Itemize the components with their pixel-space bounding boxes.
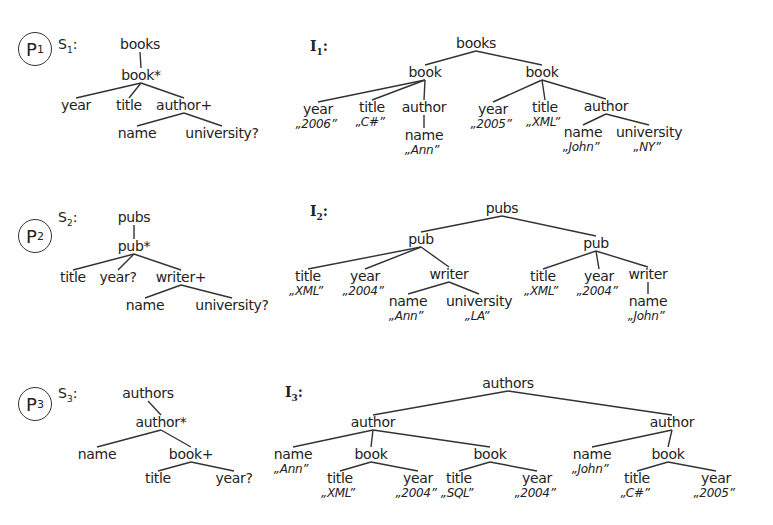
i2-node-p2: pub bbox=[583, 235, 609, 251]
i3-node-t3: title bbox=[624, 470, 650, 486]
i2-edge-p1-t1 bbox=[308, 247, 421, 269]
i3-node-authors: authors bbox=[482, 375, 533, 391]
i2-node-n1: name bbox=[389, 293, 428, 309]
i3-edge-a1-n1 bbox=[293, 430, 373, 447]
s1-node-name: name bbox=[118, 125, 157, 141]
s3-node-year: year? bbox=[215, 470, 252, 486]
i3-value-t2: „SQL” bbox=[441, 486, 474, 500]
schema-label-s1: S1: bbox=[58, 36, 77, 58]
i2-edge-p2-y2 bbox=[596, 251, 599, 269]
s1-node-book: book* bbox=[121, 67, 161, 83]
schema-label-s2-suffix: : bbox=[73, 209, 78, 225]
schema-label-s3-suffix: : bbox=[73, 385, 78, 401]
problem-prefix: P bbox=[26, 394, 37, 415]
i2-edge-p2-w2 bbox=[596, 251, 648, 267]
i3-node-b2: book bbox=[474, 446, 507, 462]
s3-node-title: title bbox=[145, 470, 171, 486]
s2-node-name: name bbox=[126, 297, 165, 313]
s2-node-pub: pub* bbox=[118, 238, 150, 254]
i3-value-t1: „XML” bbox=[321, 486, 355, 500]
i1-value-t1: „C#” bbox=[355, 115, 384, 129]
i2-node-w2: writer bbox=[628, 266, 667, 282]
i3-node-a1: author bbox=[351, 414, 395, 430]
s1-node-author: author+ bbox=[156, 97, 212, 113]
s1-node-title: title bbox=[116, 97, 142, 113]
i3-node-n1: name bbox=[274, 446, 313, 462]
s3-node-name: name bbox=[78, 446, 117, 462]
instance-label-i1: I1: bbox=[310, 38, 328, 57]
i1-node-u2: university bbox=[616, 124, 682, 140]
instance-label-i2-suffix: : bbox=[323, 203, 328, 219]
s2-edge-pub-title bbox=[73, 254, 134, 270]
i1-node-b1: book bbox=[409, 64, 442, 80]
i3-value-t3: „C#” bbox=[620, 486, 649, 500]
i3-node-y3: year bbox=[701, 470, 731, 486]
i2-node-pubs: pubs bbox=[486, 200, 519, 216]
s2-node-pubs: pubs bbox=[118, 209, 151, 225]
i3-node-b3: book bbox=[652, 446, 685, 462]
i1-node-books: books bbox=[456, 35, 496, 51]
i2-edge-pubs-p2 bbox=[502, 216, 596, 236]
i3-edge-a2-b3 bbox=[668, 430, 672, 447]
i1-edge-books-b2 bbox=[476, 51, 542, 65]
i1-value-n1: „Ann” bbox=[405, 143, 439, 157]
i1-node-n2: name bbox=[564, 124, 603, 140]
i3-node-y2: year bbox=[522, 470, 552, 486]
i3-edge-authors-a2 bbox=[508, 391, 672, 415]
i3-value-n1: „Ann” bbox=[274, 462, 308, 476]
i1-node-t2: title bbox=[532, 99, 558, 115]
problem-label-p1: P1 bbox=[18, 32, 52, 66]
s1-edge-books-book bbox=[140, 52, 141, 68]
instance-label-i1-suffix: : bbox=[323, 38, 328, 54]
i1-edge-b2-t2 bbox=[542, 80, 545, 100]
i1-node-y2: year bbox=[478, 101, 508, 117]
i3-node-t1: title bbox=[327, 470, 353, 486]
i1-value-y1: „2006” bbox=[295, 117, 336, 131]
i2-edge-p1-w1 bbox=[421, 247, 449, 267]
i3-value-n2: „John” bbox=[572, 462, 609, 476]
problem-index: 2 bbox=[37, 230, 44, 243]
s2-node-title: title bbox=[60, 269, 86, 285]
problem-label-p3: P3 bbox=[18, 387, 52, 421]
s1-node-year: year bbox=[61, 97, 91, 113]
i3-edge-a2-n2 bbox=[592, 430, 672, 447]
i1-node-n1: name bbox=[405, 127, 444, 143]
i2-node-y2: year bbox=[584, 268, 614, 284]
i1-node-a2: author bbox=[584, 98, 628, 114]
s2-node-university: university? bbox=[195, 297, 268, 313]
i3-edge-a1-b1 bbox=[371, 430, 373, 447]
i1-value-n2: „John” bbox=[563, 140, 600, 154]
i2-node-w1: writer bbox=[429, 266, 468, 282]
i1-value-u2: „NY” bbox=[633, 140, 661, 154]
problem-index: 3 bbox=[37, 398, 44, 411]
i1-node-a1: author bbox=[402, 99, 446, 115]
i2-value-n1: „Ann” bbox=[389, 309, 423, 323]
schema-label-s1-suffix: : bbox=[73, 36, 78, 52]
i2-value-n2: „John” bbox=[628, 309, 665, 323]
i1-value-t2: „XML” bbox=[526, 115, 560, 129]
i3-value-y3: „2005” bbox=[693, 486, 734, 500]
s3-edge-author-name bbox=[97, 430, 161, 447]
i3-node-n2: name bbox=[573, 446, 612, 462]
i2-edge-p1-y1 bbox=[365, 247, 421, 269]
s3-node-authors: authors bbox=[122, 385, 173, 401]
s1-node-university: university? bbox=[185, 125, 258, 141]
i2-node-p1: pub bbox=[408, 231, 434, 247]
i2-node-y1: year bbox=[350, 268, 380, 284]
i2-edge-p2-t2 bbox=[543, 251, 596, 269]
i2-value-t1: „XML” bbox=[289, 284, 323, 298]
instance-label-i3: I3: bbox=[285, 384, 303, 403]
i3-node-b1: book bbox=[355, 446, 388, 462]
i2-value-y1: „2004” bbox=[342, 284, 383, 298]
i2-node-t1: title bbox=[295, 268, 321, 284]
schema-label-s2-prefix: S bbox=[58, 209, 67, 225]
i3-edge-authors-a1 bbox=[373, 391, 508, 415]
problem-prefix: P bbox=[26, 39, 37, 60]
s3-node-book: book+ bbox=[169, 446, 213, 462]
instance-label-i2: I2: bbox=[310, 203, 328, 222]
schema-label-s1-prefix: S bbox=[58, 36, 67, 52]
i3-value-y1: „2004” bbox=[395, 486, 436, 500]
i2-node-t2: title bbox=[530, 268, 556, 284]
s3-node-author: author* bbox=[135, 414, 186, 430]
s1-edge-book-author bbox=[141, 83, 184, 98]
